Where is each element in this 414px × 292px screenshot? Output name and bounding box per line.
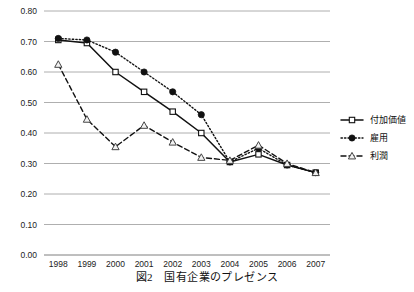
legend-label: 雇用 <box>370 132 388 143</box>
gridlines-group <box>44 11 330 255</box>
y-axis-tick-label: 0.40 <box>20 128 37 138</box>
data-point-marker <box>169 139 176 146</box>
series-line <box>58 40 315 173</box>
y-axis-tick-label: 0.80 <box>20 6 37 16</box>
y-axis-tick-labels: 0.000.100.200.300.400.500.600.700.80 <box>20 6 37 260</box>
data-point-marker <box>113 69 118 74</box>
line-chart: 0.000.100.200.300.400.500.600.700.80 199… <box>0 0 414 292</box>
chart-legend: 付加価値雇用利潤 <box>341 114 406 161</box>
y-axis-tick-label: 0.70 <box>20 37 37 47</box>
y-axis-tick-label: 0.20 <box>20 189 37 199</box>
series-line <box>58 38 315 172</box>
data-point-marker <box>199 130 204 135</box>
data-point-marker <box>141 122 148 129</box>
series-lines-group <box>58 38 315 172</box>
data-point-marker <box>112 49 118 55</box>
legend-marker-open-square <box>349 117 354 122</box>
figure-caption: 図2 国有企業のプレゼンス <box>0 268 414 284</box>
legend-marker-filled-circle <box>349 135 355 141</box>
y-axis-tick-label: 0.60 <box>20 67 37 77</box>
legend-label: 利潤 <box>370 150 388 161</box>
series-markers-group <box>55 35 320 175</box>
data-point-marker <box>141 89 146 94</box>
data-point-marker <box>256 152 261 157</box>
data-point-marker <box>170 89 176 95</box>
data-point-marker <box>83 116 90 123</box>
series-line <box>58 64 315 172</box>
data-point-marker <box>141 69 147 75</box>
y-axis-tick-label: 0.00 <box>20 250 37 260</box>
y-axis-tick-label: 0.50 <box>20 98 37 108</box>
legend-label: 付加価値 <box>370 114 406 125</box>
data-point-marker <box>255 142 262 149</box>
data-point-marker <box>170 109 175 114</box>
y-axis-tick-label: 0.10 <box>20 220 37 230</box>
data-point-marker <box>84 37 90 43</box>
y-axis-tick-label: 0.30 <box>20 159 37 169</box>
data-point-marker <box>55 61 62 68</box>
data-point-marker <box>198 112 204 118</box>
data-point-marker <box>55 35 61 41</box>
figure-container: 0.000.100.200.300.400.500.600.700.80 199… <box>0 0 414 292</box>
